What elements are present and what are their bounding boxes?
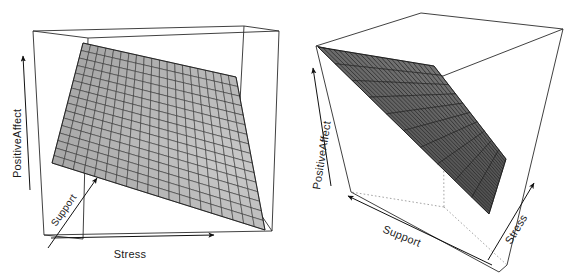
surface-mesh-right bbox=[318, 47, 506, 214]
chart-panel-left: PositiveAffect Support Stress bbox=[0, 0, 286, 273]
axis-label-positiveaffect-right: PositiveAffect bbox=[310, 120, 333, 190]
surface-plot-figure: PositiveAffect Support Stress bbox=[0, 0, 571, 273]
axis-label-support-right: Support bbox=[381, 223, 423, 249]
axis-label-stress-left: Stress bbox=[114, 248, 147, 260]
axis-support-right bbox=[348, 196, 492, 265]
axis-stress-left bbox=[51, 235, 214, 238]
chart-panel-right: PositiveAffect Support Stress bbox=[286, 0, 571, 273]
axis-label-positiveaffect-left: PositiveAffect bbox=[11, 109, 23, 178]
panel-left-canvas: PositiveAffect Support Stress bbox=[0, 0, 286, 273]
panel-right-canvas: PositiveAffect Support Stress bbox=[286, 0, 571, 273]
axis-positiveaffect-left bbox=[23, 56, 30, 190]
